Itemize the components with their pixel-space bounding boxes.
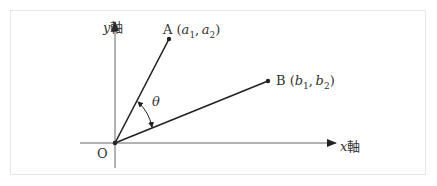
point-b-label: B (b1, b2) xyxy=(276,73,335,91)
x-axis-label: x軸 xyxy=(340,136,360,155)
point-b-dot xyxy=(266,79,270,83)
angle-arc xyxy=(138,102,152,127)
vector-oa xyxy=(115,39,169,143)
origin-label: O xyxy=(97,146,108,161)
point-a-label: A (a1, a2) xyxy=(163,22,220,40)
vector-ob xyxy=(115,81,268,143)
angle-label: θ xyxy=(152,94,160,109)
origin-point xyxy=(113,141,118,146)
y-axis-label: y軸 xyxy=(103,17,123,36)
